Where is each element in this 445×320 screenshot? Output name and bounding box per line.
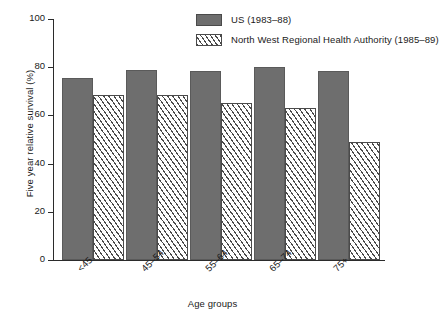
x-axis-title: Age groups (40, 298, 385, 309)
y-tick-label-60: 60 (34, 108, 45, 119)
bar-nwrha-4 (349, 142, 380, 260)
plot-area: 0 20 40 60 80 100 <45 (53, 19, 385, 260)
bar-nwrha-0 (93, 95, 124, 260)
bar-nwrha-2 (221, 103, 252, 260)
y-tick-20: 20 (48, 212, 53, 213)
bar-nwrha-1 (157, 95, 188, 260)
bar-us-4 (318, 71, 349, 260)
bar-chart: US (1983–88) North West Regional Health … (0, 0, 445, 320)
y-tick-label-80: 80 (34, 60, 45, 71)
y-tick-80: 80 (48, 67, 53, 68)
y-axis-title: Five year relative survival (%) (24, 39, 35, 229)
bar-us-0 (62, 78, 93, 260)
bar-us-2 (190, 71, 221, 260)
y-tick-0: 0 (48, 260, 53, 261)
bar-us-1 (126, 70, 157, 260)
bar-us-3 (254, 67, 285, 260)
y-tick-label-40: 40 (34, 157, 45, 168)
y-tick-40: 40 (48, 164, 53, 165)
y-tick-label-20: 20 (34, 205, 45, 216)
y-tick-60: 60 (48, 115, 53, 116)
y-tick-label-0: 0 (40, 253, 45, 264)
y-axis-line (53, 19, 54, 260)
bar-nwrha-3 (285, 108, 316, 260)
y-tick-label-100: 100 (29, 12, 45, 23)
y-tick-100: 100 (48, 19, 53, 20)
